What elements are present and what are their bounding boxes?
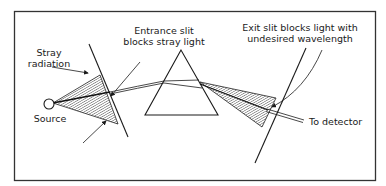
stray-radiation-line-1: Stray <box>24 47 74 58</box>
prism-internal-beam-upper <box>164 80 199 81</box>
source-label: Source <box>32 113 68 124</box>
entrance-slit-line-1: Entrance slit <box>114 25 214 36</box>
prism-internal-beam-lower <box>164 83 202 88</box>
exit-slit-line-1: Exit slit blocks light with <box>235 22 365 33</box>
beam-to-prism-lower <box>110 83 164 94</box>
detector-beam-lower <box>266 112 303 123</box>
entrance-slit-line-2: blocks stray light <box>114 36 214 47</box>
detector-beam-upper <box>267 109 304 120</box>
exit-slit-line-2: undesired wavelength <box>235 33 365 44</box>
exit-slit-label: Exit slit blocks light with undesired wa… <box>235 22 365 44</box>
stray-radiation-line-2: radiation <box>24 58 74 69</box>
source-icon <box>44 99 54 109</box>
exit-slit-arrow <box>272 50 322 107</box>
stray-radiation-label: Stray radiation <box>24 47 74 69</box>
entrance-slit-label: Entrance slit blocks stray light <box>114 25 214 47</box>
stray-lower-arrow <box>83 121 106 143</box>
beam-to-prism-upper <box>110 81 164 92</box>
to-detector-label: To detector <box>309 116 362 127</box>
